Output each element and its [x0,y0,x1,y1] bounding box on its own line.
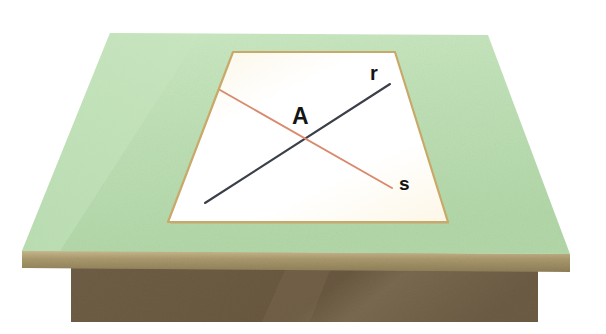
board-base [71,266,538,322]
figure-scene: A r s [0,0,606,334]
label-point-a: A [292,103,309,129]
label-line-s: s [399,173,410,194]
figure-svg: A r s [0,0,606,334]
label-line-r: r [370,62,378,84]
